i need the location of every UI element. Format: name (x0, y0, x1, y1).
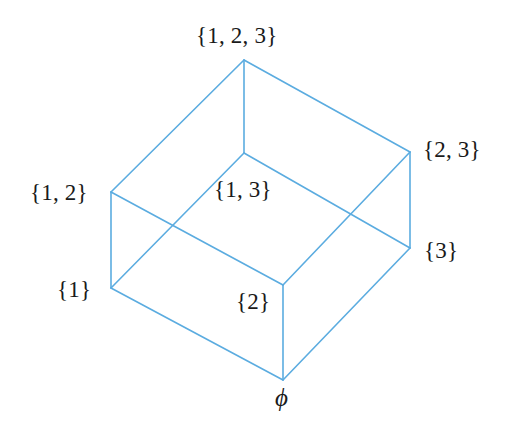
vertex-label-s3: {3} (424, 239, 458, 262)
cube-edge-s23-s2 (283, 152, 410, 285)
cube-edge-s3-empty (283, 248, 410, 380)
edges-group (111, 60, 410, 380)
power-set-cube-figure: {1, 2, 3}{1, 2}{1, 3}{2, 3}{1}{2}{3}ϕ (0, 0, 511, 436)
vertex-label-s23: {2, 3} (423, 138, 481, 161)
cube-edge-full-s23 (244, 60, 410, 152)
cube-edge-s12-s2 (111, 192, 283, 285)
vertex-label-s1: {1} (57, 278, 91, 301)
vertex-label-s2: {2} (236, 290, 270, 313)
vertex-label-s13: {1, 3} (214, 178, 272, 201)
vertex-label-full: {1, 2, 3} (196, 24, 277, 47)
vertex-label-s12: {1, 2} (30, 181, 88, 204)
vertex-label-empty: ϕ (275, 385, 288, 410)
cube-diagram-svg (0, 0, 511, 436)
